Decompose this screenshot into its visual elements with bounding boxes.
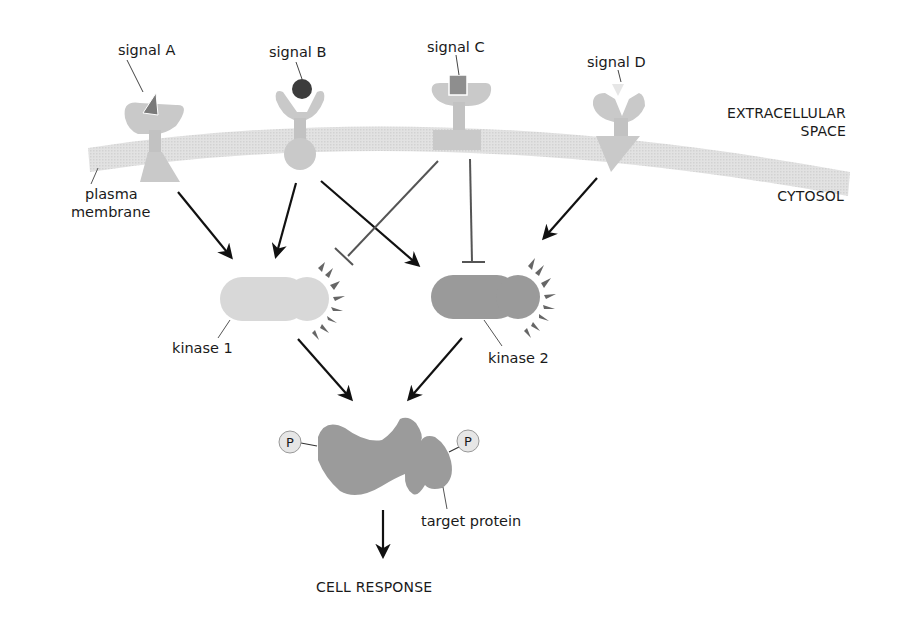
phosphate-right: P: [457, 430, 479, 452]
cytosol-label: CYTOSOL: [777, 188, 844, 204]
kinase-1: [218, 262, 345, 340]
activation-arrows: [178, 178, 597, 556]
membrane-label-line2: membrane: [71, 204, 150, 220]
extracellular-label-line1: EXTRACELLULAR: [727, 105, 846, 121]
signal-a-label: signal A: [118, 42, 176, 58]
phosphate-left-label: P: [286, 435, 294, 450]
target-protein-label: target protein: [421, 513, 521, 529]
signal-c-label: signal C: [427, 39, 485, 55]
arrow-d-to-kinase2: [544, 178, 597, 238]
kinase-2: [431, 258, 556, 346]
signal-d-label: signal D: [587, 54, 646, 70]
cell-response-label: CELL RESPONSE: [316, 579, 432, 595]
signal-b-circle-icon: [292, 79, 312, 99]
arrow-kinase2-to-target: [409, 338, 462, 399]
inhibit-c-to-kinase2: [470, 159, 472, 262]
phosphate-left: P: [279, 431, 301, 453]
signal-d-triangle-icon: [612, 84, 624, 96]
receptor-b: [276, 62, 325, 170]
arrow-kinase1-to-target: [298, 339, 351, 399]
inhibit-c-to-kinase1: [348, 161, 438, 256]
arrow-b-to-kinase2: [321, 181, 418, 265]
signal-c-square-icon: [449, 75, 467, 95]
membrane-label-line1: plasma: [85, 186, 138, 202]
signaling-diagram: P P signal A signal B signal C signal D …: [0, 0, 898, 625]
signal-b-label: signal B: [269, 44, 326, 60]
phosphate-right-label: P: [464, 434, 472, 449]
kinase-1-label: kinase 1: [172, 340, 233, 356]
arrow-b-to-kinase1: [276, 183, 296, 256]
target-protein: P P: [279, 418, 479, 509]
extracellular-label-line2: SPACE: [801, 123, 846, 139]
arrow-a-to-kinase1: [178, 192, 231, 257]
kinase-2-label: kinase 2: [488, 350, 549, 366]
